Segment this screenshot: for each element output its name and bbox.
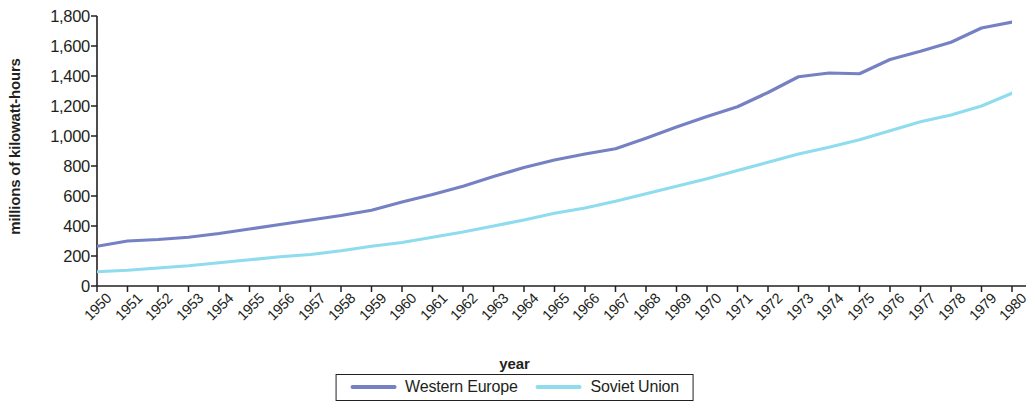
x-axis-tick-label: 1957 — [288, 290, 328, 330]
y-axis-title-text: millions of kilowatt-hours — [6, 58, 23, 234]
chart-legend: Western EuropeSoviet Union — [335, 374, 694, 401]
y-axis-tick-label: 1,600 — [30, 37, 90, 56]
x-axis-tick-label: 1975 — [837, 290, 877, 330]
x-axis-tick-label: 1974 — [807, 290, 847, 330]
x-axis-tick-label: 1953 — [166, 290, 206, 330]
y-axis-tick-label: 1,800 — [30, 7, 90, 26]
x-axis-tick-label: 1969 — [654, 290, 694, 330]
x-axis-tick-label: 1966 — [563, 290, 603, 330]
x-axis-tick-label: 1956 — [258, 290, 298, 330]
x-axis-tick-label: 1958 — [319, 290, 359, 330]
legend-label: Soviet Union — [591, 378, 679, 396]
x-axis-tick-label: 1980 — [990, 290, 1029, 330]
x-axis-tick-label: 1961 — [410, 290, 450, 330]
x-axis-tick-label: 1977 — [898, 290, 938, 330]
y-axis-tick-label: 800 — [30, 157, 90, 176]
x-axis-tick-label: 1973 — [776, 290, 816, 330]
x-axis-tick-label: 1962 — [441, 290, 481, 330]
y-axis-tick-label: 400 — [30, 217, 90, 236]
legend-label: Western Europe — [405, 378, 518, 396]
y-axis-tick-label: 600 — [30, 187, 90, 206]
plot-area — [97, 16, 1012, 286]
plot-series-svg — [97, 16, 1012, 286]
x-axis-tick-label: 1952 — [136, 290, 176, 330]
x-axis-tick-label: 1965 — [532, 290, 572, 330]
y-axis-tick-label: 1,200 — [30, 97, 90, 116]
x-axis-tick-label: 1971 — [715, 290, 755, 330]
x-axis-tick-label: 1967 — [593, 290, 633, 330]
x-axis-tick-label: 1979 — [959, 290, 999, 330]
legend-entry: Western Europe — [350, 378, 518, 396]
x-axis-tick-label: 1964 — [502, 290, 542, 330]
x-axis-tick-label: 1955 — [227, 290, 267, 330]
y-axis-tick-label: 1,000 — [30, 127, 90, 146]
x-axis-tick-label: 1970 — [685, 290, 725, 330]
legend-entry: Soviet Union — [536, 378, 679, 396]
x-axis-tick-labels: 1950195119521953195419551956195719581959… — [97, 290, 1027, 350]
legend-color-swatch — [536, 385, 582, 388]
y-axis-tick-label: 200 — [30, 247, 90, 266]
y-axis-tick-labels: 1,8001,6001,4001,2001,0008006004002000 — [28, 0, 90, 300]
x-axis-tick-label: 1954 — [197, 290, 237, 330]
y-axis-tick-label: 0 — [30, 277, 90, 296]
x-axis-tick-label: 1978 — [929, 290, 969, 330]
legend-color-swatch — [350, 385, 396, 388]
x-axis-tick-label: 1972 — [746, 290, 786, 330]
x-axis-tick-label: 1968 — [624, 290, 664, 330]
x-axis-tick-label: 1976 — [868, 290, 908, 330]
x-axis-tick-label: 1959 — [349, 290, 389, 330]
y-axis-title: millions of kilowatt-hours — [0, 0, 28, 292]
x-axis-title: year — [0, 355, 1029, 372]
x-axis-tick-label: 1963 — [471, 290, 511, 330]
series-line-soviet-union — [97, 93, 1012, 272]
x-axis-tick-label: 1951 — [105, 290, 145, 330]
x-axis-tick-label: 1960 — [380, 290, 420, 330]
y-axis-tick-label: 1,400 — [30, 67, 90, 86]
line-chart: millions of kilowatt-hours 1,8001,6001,4… — [0, 0, 1029, 404]
